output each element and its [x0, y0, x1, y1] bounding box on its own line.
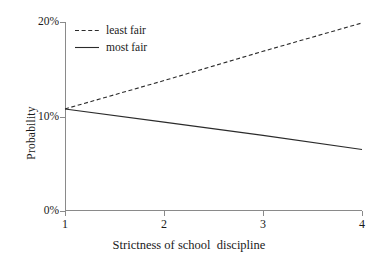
series-line-most-fair — [65, 109, 362, 150]
legend-swatch-solid — [75, 43, 99, 52]
legend-item-least-fair: least fair — [75, 24, 147, 37]
x-axis-title: Strictness of school discipline — [0, 238, 378, 253]
x-tick-label: 1 — [62, 218, 68, 230]
legend: least fair most fair — [75, 24, 147, 54]
legend-label-most-fair: most fair — [106, 42, 147, 54]
x-tick-label: 2 — [161, 218, 167, 230]
plot-area: 0%10%20% 1234 least fair most fair — [65, 22, 362, 211]
chart-figure: Probability 0%10%20% 1234 least fair mos… — [0, 0, 378, 266]
y-tick-label: 0% — [44, 205, 59, 217]
y-tick-label: 10% — [38, 111, 59, 123]
x-tick — [362, 211, 363, 216]
x-tick — [263, 211, 264, 216]
x-tick-label: 4 — [359, 218, 365, 230]
legend-item-most-fair: most fair — [75, 41, 147, 54]
x-tick — [164, 211, 165, 216]
x-tick — [65, 211, 66, 216]
x-tick-label: 3 — [260, 218, 266, 230]
legend-label-least-fair: least fair — [106, 25, 146, 37]
y-axis-title: Probability — [25, 106, 37, 159]
y-tick-label: 20% — [38, 16, 59, 28]
legend-swatch-dashed — [75, 26, 99, 35]
